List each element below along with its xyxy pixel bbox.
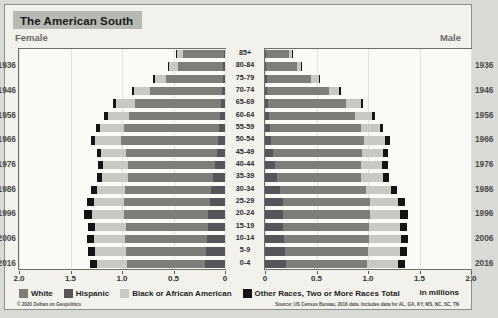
bar-segment (88, 223, 95, 231)
bar-segment (265, 260, 286, 268)
pyramid-bar (91, 186, 225, 194)
age-group-label: 20-24 (226, 208, 264, 219)
pyramid-band (19, 86, 225, 97)
birth-year-label: 2006 (0, 233, 16, 244)
axis-tick-label: 0.5 (311, 274, 322, 283)
pyramid-band (19, 209, 225, 220)
age-group-label: 60-64 (226, 110, 264, 121)
bar-segment (385, 136, 389, 144)
age-group-label: 0-4 (226, 258, 264, 269)
pyramid-band (265, 111, 471, 122)
bar-segment (125, 186, 210, 194)
pyramid-band (19, 49, 225, 60)
axis-tick-label: 2.0 (465, 274, 476, 283)
pyramid-band (19, 111, 225, 122)
pyramid-bar (168, 62, 225, 70)
bar-segment (361, 161, 383, 169)
birth-year-label: 2006 (475, 233, 498, 244)
birth-year-axis-right: 193619461956196619761986199620062016 (475, 48, 498, 270)
bar-segment (217, 149, 225, 157)
bar-segment (283, 198, 371, 206)
bar-segment (208, 210, 224, 218)
legend: WhiteHispanicBlack or African AmericanOt… (19, 287, 407, 299)
bar-segment (267, 87, 329, 95)
birth-year-label: 1996 (0, 208, 16, 219)
pyramid-bar (153, 75, 225, 83)
bar-segment (88, 247, 95, 255)
birth-year-label: 1966 (475, 134, 498, 145)
pyramid-bar (265, 247, 407, 255)
axis-tick-label: 1.5 (414, 274, 425, 283)
pyramid-band (19, 74, 225, 85)
pyramid-bar (265, 198, 405, 206)
bar-segment (126, 149, 217, 157)
pyramid-band (265, 98, 471, 109)
axis-tick-label: 1.0 (362, 274, 373, 283)
bar-segment (355, 112, 373, 120)
birth-year-axis-left: 193619461956196619761986199620062016 (0, 48, 16, 270)
pyramid-bar (265, 149, 388, 157)
pyramid-band (19, 222, 225, 233)
page-title-text: The American South (20, 15, 133, 27)
bar-segment (108, 112, 130, 120)
pyramid-bar (265, 124, 383, 132)
legend-label: Other Races, Two or More Races Total (255, 289, 400, 298)
age-group-axis: 85+80-8475-7970-7465-6960-6455-5950-5445… (226, 48, 264, 270)
birth-year-label: 1946 (0, 85, 16, 96)
bar-segment (277, 173, 360, 181)
bar-segment (361, 99, 363, 107)
bar-segment (208, 223, 224, 231)
pyramid-band (265, 123, 471, 134)
bar-segment (265, 210, 283, 218)
pyramid-bar (88, 223, 225, 231)
pyramid-band (265, 172, 471, 183)
bar-segment (126, 247, 206, 255)
bar-segment (366, 186, 391, 194)
bar-segment (125, 235, 207, 243)
birth-year-label: 1946 (475, 85, 498, 96)
copyright-note: © 2020 Zeihan on Geopolitics (17, 302, 81, 307)
chart-card: The American South Female Male 85+80-847… (4, 4, 472, 310)
pyramid-bar (265, 50, 293, 58)
birth-year-label: 1976 (475, 159, 498, 170)
pyramid-bar (96, 124, 225, 132)
bar-segment (284, 235, 369, 243)
bar-segment (267, 75, 311, 83)
bar-segment (401, 235, 408, 243)
bar-segment (270, 124, 361, 132)
bar-segment (329, 87, 339, 95)
axis-tick-label: 0.5 (168, 274, 179, 283)
bar-segment (97, 186, 125, 194)
bar-segment (101, 149, 126, 157)
units-label: in millions (419, 287, 459, 299)
axis-tick-label: 1.0 (116, 274, 127, 283)
age-group-label: 25-29 (226, 196, 264, 207)
bar-segment (213, 173, 225, 181)
legend-swatch (243, 289, 252, 298)
age-group-label: 75-79 (226, 73, 264, 84)
pyramid-band (265, 160, 471, 171)
age-group-label: 65-69 (226, 97, 264, 108)
male-pyramid-plot (264, 48, 472, 270)
bar-segment (183, 50, 224, 58)
bar-segment (92, 210, 124, 218)
legend-item: Black or African American (120, 289, 231, 298)
pyramid-bar (87, 235, 225, 243)
bar-segment (124, 198, 209, 206)
pyramid-band (19, 123, 225, 134)
female-pyramid-plot (18, 48, 226, 270)
bar-segment (223, 75, 225, 83)
bar-segment (400, 223, 407, 231)
pyramid-band (19, 61, 225, 72)
birth-year-label: 1986 (0, 184, 16, 195)
birth-year-label: 1956 (0, 110, 16, 121)
birth-year-label: 2016 (0, 258, 16, 269)
bar-segment (372, 112, 375, 120)
bar-segment (383, 173, 388, 181)
birth-year-label: 2016 (475, 258, 498, 269)
bar-segment (95, 223, 126, 231)
axis-tick-label: 2.0 (13, 274, 24, 283)
bar-segment (398, 260, 405, 268)
age-group-label: 85+ (226, 48, 264, 59)
bar-segment (219, 124, 225, 132)
